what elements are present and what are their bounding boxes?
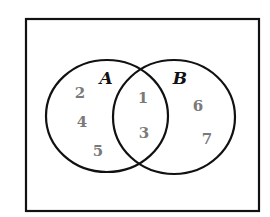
universal-set-rectangle <box>26 19 259 211</box>
element-intersection: 1 <box>138 89 148 107</box>
element-b-only: 6 <box>193 97 203 115</box>
set-a-label: A <box>97 68 112 88</box>
element-b-only: 7 <box>202 130 212 148</box>
element-a-only: 2 <box>75 84 85 102</box>
element-a-only: 4 <box>77 113 87 131</box>
set-b-label: B <box>172 68 187 88</box>
venn-diagram: A B 2 4 5 1 3 6 7 <box>0 0 270 217</box>
element-intersection: 3 <box>139 124 149 142</box>
element-a-only: 5 <box>93 142 103 160</box>
